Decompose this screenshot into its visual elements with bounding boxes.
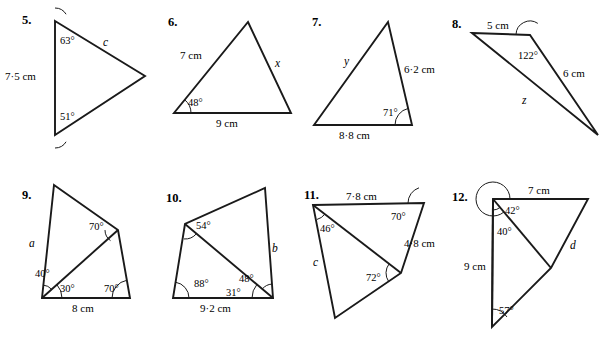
question-number: 9. bbox=[22, 189, 31, 202]
figure-outline bbox=[173, 188, 273, 298]
question-number: 12. bbox=[452, 191, 468, 204]
side-length-label: 5 cm bbox=[487, 20, 509, 31]
unknown-side-label: c bbox=[313, 257, 318, 269]
angle-arc bbox=[516, 21, 538, 35]
side-length-label: 7·5 cm bbox=[5, 71, 36, 82]
unknown-side-label: a bbox=[29, 238, 35, 250]
figure-internal-line bbox=[313, 205, 401, 273]
angle-label: 70° bbox=[104, 284, 119, 295]
unknown-side-label: x bbox=[275, 58, 280, 70]
side-length-label: 9 cm bbox=[216, 118, 238, 129]
angle-label: 70° bbox=[89, 222, 104, 233]
angle-label: 40° bbox=[35, 269, 50, 280]
angle-label: 54° bbox=[196, 221, 211, 232]
question-number: 11. bbox=[304, 189, 319, 202]
side-length-label: 6·2 cm bbox=[404, 64, 435, 75]
side-length-label: 7·8 cm bbox=[346, 191, 377, 202]
side-length-label: 9 cm bbox=[464, 261, 486, 272]
angle-arc bbox=[262, 284, 272, 289]
angle-label: 48° bbox=[239, 274, 254, 285]
angle-label: 72° bbox=[366, 273, 381, 284]
angle-label: 48° bbox=[188, 98, 203, 109]
side-length-label: 9·2 cm bbox=[200, 303, 231, 314]
figure-10 bbox=[173, 188, 273, 298]
question-number: 10. bbox=[166, 192, 182, 205]
angle-arc bbox=[176, 282, 189, 298]
angle-label: 71° bbox=[383, 108, 398, 119]
unknown-side-label: c bbox=[103, 37, 108, 49]
angle-label: 63° bbox=[60, 36, 75, 47]
worksheet-page: 5.63°51°7·5 cmc6.48°7 cm9 cmx7.71°y6·2 c… bbox=[0, 0, 611, 340]
angle-label: 88° bbox=[194, 279, 209, 290]
angle-arc bbox=[252, 285, 257, 299]
angle-label: 122° bbox=[518, 51, 538, 62]
figure-outline bbox=[472, 33, 598, 135]
figure-outline bbox=[42, 185, 130, 298]
unknown-side-label: y bbox=[344, 56, 349, 68]
figure-internal-line bbox=[492, 199, 493, 327]
angle-label: 42° bbox=[505, 206, 520, 217]
side-length-label: 8 cm bbox=[72, 303, 94, 314]
angle-label: 40° bbox=[497, 227, 512, 238]
figure-9 bbox=[42, 185, 130, 298]
angle-label: 30° bbox=[60, 284, 75, 295]
angle-arc bbox=[55, 142, 66, 148]
unknown-side-label: d bbox=[570, 240, 576, 252]
angle-arc bbox=[317, 214, 325, 219]
question-number: 7. bbox=[312, 16, 321, 29]
question-number: 8. bbox=[452, 18, 461, 31]
angle-arc bbox=[408, 188, 419, 203]
angle-arc bbox=[55, 8, 66, 14]
figure-5 bbox=[55, 8, 145, 148]
side-length-label: 6 cm bbox=[563, 68, 585, 79]
angle-arc bbox=[493, 207, 500, 210]
question-number: 6. bbox=[168, 16, 177, 29]
angle-label: 57° bbox=[499, 306, 514, 317]
angle-label: 31° bbox=[226, 288, 241, 299]
figure-11 bbox=[313, 188, 424, 318]
angle-arc bbox=[43, 285, 52, 289]
angle-label: 70° bbox=[391, 212, 406, 223]
unknown-side-label: b bbox=[272, 243, 278, 255]
angle-arc bbox=[184, 234, 197, 239]
angle-label: 46° bbox=[320, 224, 335, 235]
side-length-label: 7 cm bbox=[528, 185, 550, 196]
side-length-label: 8·8 cm bbox=[339, 130, 370, 141]
figure-outline bbox=[313, 203, 424, 318]
angle-label: 51° bbox=[60, 112, 75, 123]
side-length-label: 4·8 cm bbox=[404, 238, 435, 249]
unknown-side-label: z bbox=[522, 95, 526, 107]
angle-arc bbox=[386, 264, 389, 282]
side-length-label: 7 cm bbox=[180, 50, 202, 61]
question-number: 5. bbox=[22, 14, 31, 27]
figure-12 bbox=[476, 182, 588, 327]
